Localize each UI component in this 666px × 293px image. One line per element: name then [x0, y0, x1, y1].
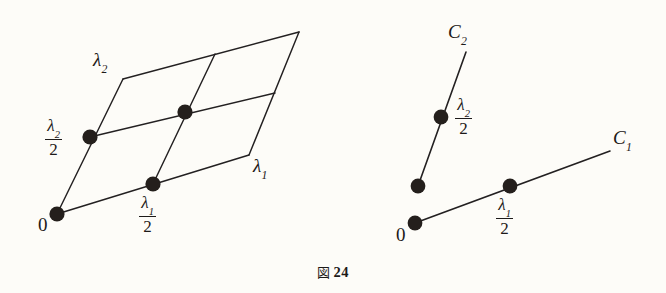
- label-origin-right: 0: [396, 225, 406, 244]
- origin-dot-right: [408, 216, 423, 231]
- label-c2-right: C2: [448, 22, 467, 46]
- half-lambda1-dot-left: [145, 176, 160, 191]
- c2-base-dot-right: [411, 179, 426, 194]
- figure-caption: 図24: [0, 262, 666, 281]
- origin-dot-left: [49, 206, 64, 221]
- label-half-lambda1-left: λ1 2: [139, 194, 156, 235]
- half-lambda1-dot-right: [503, 179, 518, 194]
- caption-symbol: 図: [317, 265, 331, 280]
- label-lambda1-left: λ1: [253, 156, 267, 180]
- figure-drawing-canvas: [0, 0, 666, 293]
- label-half-lambda2-left: λ2 2: [45, 117, 62, 158]
- label-half-lambda2-right: λ2 2: [455, 96, 472, 137]
- label-origin-left: 0: [38, 215, 48, 234]
- center-dot-left: [177, 104, 192, 119]
- figure-24: 0 λ2 λ1 λ2 2 λ1 2 0 C2 C1 λ2 2: [0, 0, 666, 293]
- half-lambda2-dot-left: [82, 129, 97, 144]
- caption-number: 24: [334, 264, 350, 280]
- label-c1-right: C1: [613, 128, 632, 152]
- label-half-lambda1-right: λ1 2: [496, 196, 513, 237]
- edge-origin-to-lambda2: [57, 79, 123, 214]
- left-lattice-dots-group: [49, 104, 192, 221]
- half-lambda2-dot-right: [434, 110, 449, 125]
- label-lambda2-left: λ2: [93, 50, 107, 74]
- edge-lambda2-to-opposite: [123, 32, 299, 79]
